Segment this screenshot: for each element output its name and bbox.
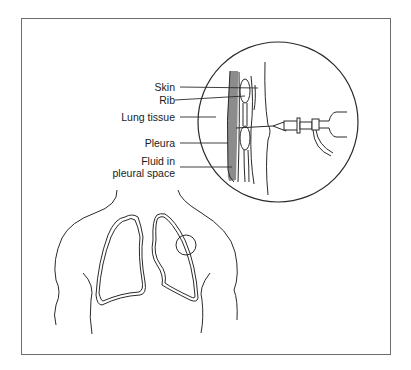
label-skin: Skin (155, 81, 175, 93)
label-fluid-line2: pleural space (113, 167, 175, 179)
label-lung-tissue: Lung tissue (121, 111, 175, 123)
label-pleura: Pleura (145, 137, 175, 149)
inset-circle (198, 42, 358, 202)
label-fluid-line1: Fluid in (141, 155, 175, 167)
thoracentesis-diagram (0, 0, 411, 370)
label-rib: Rib (159, 94, 175, 106)
lungs (96, 214, 198, 305)
inset-anatomy (227, 62, 347, 195)
torso-outline (55, 190, 238, 334)
